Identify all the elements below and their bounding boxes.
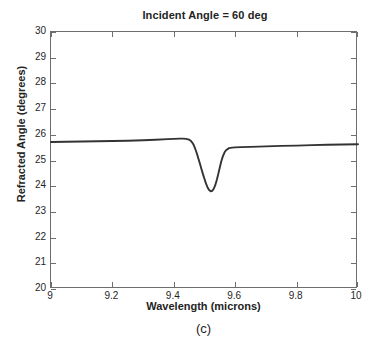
xtick-mark	[297, 32, 298, 37]
xtick-mark	[297, 282, 298, 287]
ytick-label: 21	[22, 257, 46, 267]
xtick-mark	[235, 32, 236, 37]
x-axis-label: Wavelength (microns)	[50, 300, 357, 312]
xtick-mark	[112, 282, 113, 287]
ytick-mark	[351, 161, 356, 162]
ytick-mark	[51, 161, 56, 162]
curve-layer	[51, 32, 358, 289]
plot-area	[50, 31, 357, 288]
data-series-line	[51, 139, 358, 192]
ytick-mark	[351, 212, 356, 213]
ytick-mark	[351, 186, 356, 187]
ytick-mark	[351, 32, 356, 33]
xtick-mark	[235, 282, 236, 287]
ytick-mark	[351, 263, 356, 264]
ytick-mark	[51, 238, 56, 239]
ytick-mark	[51, 83, 56, 84]
ytick-mark	[351, 83, 356, 84]
ytick-mark	[51, 212, 56, 213]
xtick-mark	[357, 32, 358, 37]
xtick-mark	[112, 32, 113, 37]
ytick-mark	[351, 109, 356, 110]
xtick-mark	[174, 32, 175, 37]
ytick-mark	[51, 58, 56, 59]
ytick-mark	[351, 135, 356, 136]
chart-title: Incident Angle = 60 deg	[50, 9, 360, 21]
ytick-mark	[51, 135, 56, 136]
xtick-mark	[357, 282, 358, 287]
ytick-mark	[351, 238, 356, 239]
figure-panel: Incident Angle = 60 deg	[0, 0, 382, 346]
xtick-mark	[51, 32, 52, 37]
ytick-mark	[51, 109, 56, 110]
y-axis-label: Refracted Angle (degrees)	[15, 19, 27, 249]
ytick-mark	[51, 186, 56, 187]
panel-caption: (c)	[50, 321, 357, 336]
xtick-mark	[174, 282, 175, 287]
ytick-mark	[351, 58, 356, 59]
xtick-mark	[51, 282, 52, 287]
ytick-mark	[51, 263, 56, 264]
